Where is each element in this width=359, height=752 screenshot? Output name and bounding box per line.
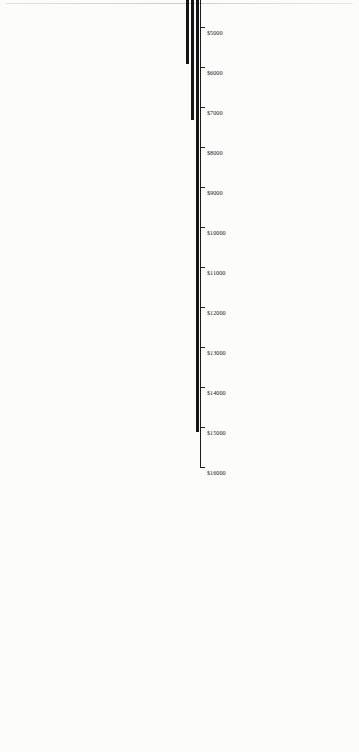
figure-rotated-container: $16000$15000$14000$13000$12000$11000$100… bbox=[0, 0, 252, 502]
bar bbox=[191, 0, 194, 120]
value-axis-tick-label: $5000 bbox=[207, 29, 222, 36]
value-axis-tick-label: $15000 bbox=[207, 429, 226, 436]
plot-area: $16000$15000$14000$13000$12000$11000$100… bbox=[0, 0, 200, 502]
value-axis-tick-label: $11000 bbox=[207, 269, 225, 276]
value-axis-tick-label: $16000 bbox=[207, 469, 226, 476]
value-axis-tick-label: $12000 bbox=[207, 309, 226, 316]
value-axis-tick-label: $13000 bbox=[207, 349, 226, 356]
value-axis-tick-label: $7000 bbox=[207, 109, 222, 116]
bar-chart: $16000$15000$14000$13000$12000$11000$100… bbox=[0, 0, 252, 502]
scanned-page: $16000$15000$14000$13000$12000$11000$100… bbox=[0, 0, 359, 752]
bar bbox=[196, 0, 199, 432]
value-axis-tick-label: $9000 bbox=[207, 189, 222, 196]
value-axis-tick-label: $8000 bbox=[207, 149, 222, 156]
value-axis-baseline bbox=[200, 0, 201, 468]
value-axis-tick-label: $14000 bbox=[207, 389, 226, 396]
value-axis-tick-label: $6000 bbox=[207, 69, 222, 76]
bar bbox=[186, 0, 189, 64]
value-axis-tick-label: $10000 bbox=[207, 229, 226, 236]
